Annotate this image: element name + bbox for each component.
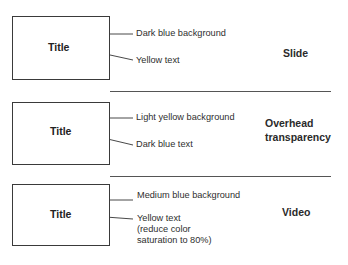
medium-label-video: Video: [282, 206, 310, 219]
slide-background-note: Dark blue background: [136, 28, 226, 39]
section-divider: [110, 176, 331, 177]
slide-title-sample: Title: [48, 41, 69, 53]
presentation-color-diagram: Title Dark blue background Yellow text S…: [0, 0, 348, 265]
overhead-title-sample: Title: [50, 125, 71, 137]
video-background-note: Medium blue background: [137, 190, 240, 201]
medium-label-overhead-line1: Overhead: [265, 117, 313, 130]
section-divider: [110, 91, 331, 92]
medium-label-overhead-line2: transparency: [265, 131, 331, 144]
slide-text-note: Yellow text: [136, 55, 180, 66]
video-text-note-line3: saturation to 80%): [137, 235, 212, 246]
video-text-note: Yellow text: [137, 213, 181, 224]
video-text-note-line2: (reduce color: [137, 224, 191, 235]
medium-label-slide: Slide: [283, 47, 308, 60]
video-title-sample: Title: [50, 208, 71, 220]
overhead-background-note: Light yellow background: [136, 112, 235, 123]
overhead-text-note: Dark blue text: [136, 139, 193, 150]
